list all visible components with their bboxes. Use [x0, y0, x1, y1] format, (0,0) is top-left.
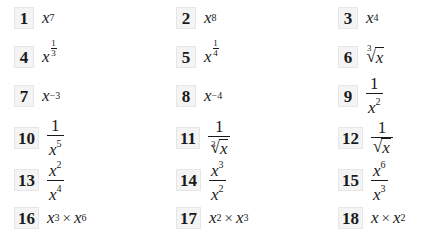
problem-9: 9 1 x2 [338, 84, 383, 108]
problem-number: 16 [14, 207, 39, 229]
problem-number: 10 [14, 127, 39, 149]
problem-7: 7 x−3 [14, 84, 60, 108]
problem-16: 16 x3 × x6 [14, 206, 87, 230]
expression-quotient: x6 x3 [371, 157, 388, 203]
problem-15: 15 x6 x3 [338, 168, 388, 192]
problem-number: 14 [176, 169, 201, 191]
problem-12: 12 1 √x [338, 126, 393, 150]
problem-number: 9 [338, 85, 358, 107]
problem-14: 14 x3 x2 [176, 168, 226, 192]
problem-number: 7 [14, 85, 34, 107]
times-icon: × [63, 210, 71, 227]
expression-fractional-power: x 1 3 [42, 47, 57, 67]
problem-number: 1 [14, 7, 34, 29]
problem-13: 13 x2 x4 [14, 168, 64, 192]
times-icon: × [382, 210, 390, 227]
fractional-exponent: 1 4 [213, 39, 219, 58]
expression-power: x−4 [204, 86, 222, 106]
expression-root: 3√x [366, 47, 384, 68]
expression-power: x4 [366, 8, 379, 28]
problem-number: 12 [338, 127, 363, 149]
expression-quotient: x2 x4 [47, 157, 64, 203]
problem-number: 4 [14, 46, 34, 68]
fractional-exponent: 1 3 [51, 39, 57, 58]
problem-11: 11 1 3√x [176, 126, 230, 150]
problem-number: 3 [338, 7, 358, 29]
problem-2: 2 x8 [176, 6, 217, 30]
expression-fractional-power: x 1 4 [204, 47, 219, 67]
problem-number: 17 [176, 207, 201, 229]
expression-product: x × x2 [371, 208, 406, 228]
times-icon: × [225, 210, 233, 227]
problem-17: 17 x2 × x3 [176, 206, 249, 230]
expression-reciprocal-power: 1 x2 [366, 75, 383, 117]
expression-reciprocal-root: 1 √x [371, 119, 393, 157]
expression-power: x7 [42, 8, 55, 28]
problem-5: 5 x 1 4 [176, 45, 219, 69]
problem-number: 6 [338, 46, 358, 68]
problem-number: 13 [14, 169, 39, 191]
square-root: √x [373, 138, 391, 157]
problem-6: 6 3√x [338, 45, 384, 69]
problem-3: 3 x4 [338, 6, 379, 30]
expression-product: x2 × x3 [209, 208, 249, 228]
problem-number: 15 [338, 169, 363, 191]
problem-8: 8 x−4 [176, 84, 222, 108]
problem-10: 10 1 x5 [14, 126, 64, 150]
expression-power: x−3 [42, 86, 60, 106]
cube-root: 3√x [366, 47, 384, 68]
expression-product: x3 × x6 [47, 208, 87, 228]
expression-power: x8 [204, 8, 217, 28]
problem-4: 4 x 1 3 [14, 45, 57, 69]
problem-number: 2 [176, 7, 196, 29]
problem-1: 1 x7 [14, 6, 55, 30]
problem-number: 18 [338, 207, 363, 229]
problem-number: 8 [176, 85, 196, 107]
problem-number: 11 [176, 127, 200, 149]
problem-number: 5 [176, 46, 196, 68]
expression-quotient: x3 x2 [209, 157, 226, 203]
expression-reciprocal-power: 1 x5 [47, 117, 64, 159]
expression-reciprocal-root: 1 3√x [208, 118, 230, 158]
problem-18: 18 x × x2 [338, 206, 406, 230]
cube-root: 3√x [210, 139, 228, 158]
